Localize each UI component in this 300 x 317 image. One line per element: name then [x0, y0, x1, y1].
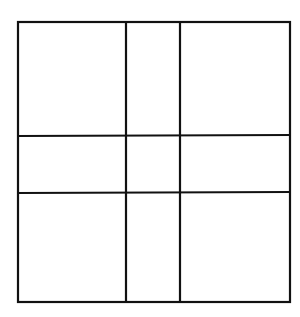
- outer-box: [18, 22, 290, 302]
- grid-diagram: [0, 0, 300, 317]
- horizontal-line-1: [18, 135, 290, 136]
- horizontal-line-2: [18, 192, 290, 193]
